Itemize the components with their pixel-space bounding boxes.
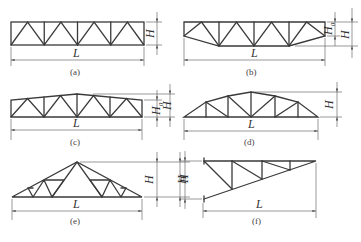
length-label-a: L — [72, 46, 80, 60]
length-label-d: L — [247, 117, 255, 131]
caption-a: (a) — [70, 67, 80, 77]
caption-b: (b) — [246, 67, 257, 77]
height-label-b: H — [338, 29, 352, 40]
length-label-c: L — [72, 116, 80, 130]
height-label-f: H — [177, 173, 191, 184]
caption-f: (f) — [252, 216, 261, 226]
truss-b: H0 H L (b) — [184, 8, 358, 77]
height-label-e: H — [142, 174, 156, 185]
truss-f: H L (f) — [177, 151, 316, 226]
height-label-a: H — [143, 28, 157, 39]
caption-d: (d) — [244, 137, 255, 147]
length-label-f: L — [255, 197, 263, 211]
height0-label-b: H0 — [321, 22, 337, 36]
caption-e: (e) — [70, 216, 80, 226]
length-label-e: L — [72, 197, 80, 211]
height-label-d: H — [322, 99, 336, 110]
h0-sub: 0 — [329, 22, 337, 26]
truss-e: H H L (e) — [12, 152, 190, 226]
length-label-b: L — [250, 46, 258, 60]
caption-c: (c) — [70, 137, 80, 147]
truss-types-figure: H L (a) H0 H L (b) — [0, 0, 361, 242]
truss-c: H0 H L (c) — [11, 84, 175, 147]
height-label-c: H — [160, 100, 174, 111]
truss-d: H L (d) — [184, 82, 342, 147]
truss-a: H L (a) — [11, 12, 162, 77]
